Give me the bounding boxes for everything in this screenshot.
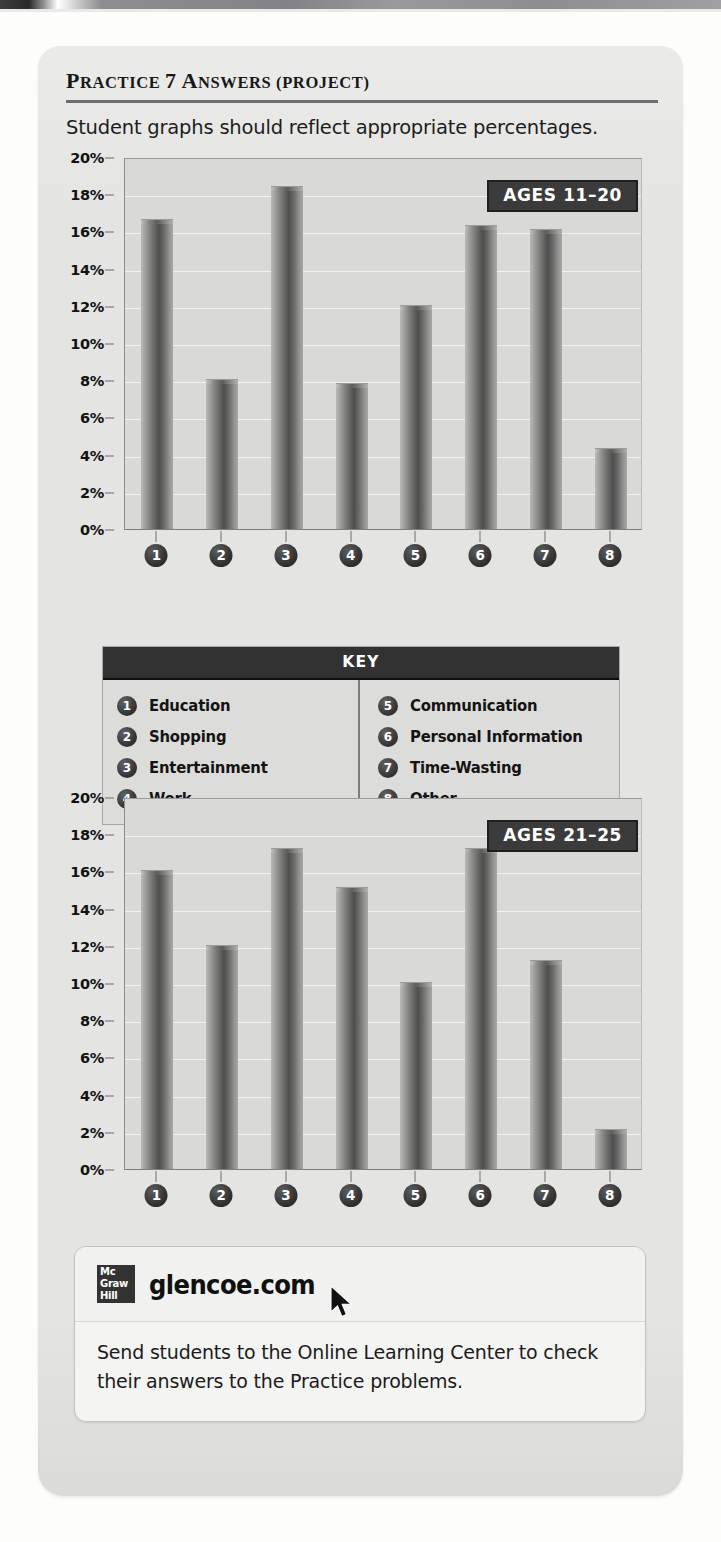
x-axis-item-2: 2 [210, 1171, 233, 1207]
x-axis-label-2: 2 [210, 1184, 233, 1207]
page-root: PRACTICE 7 ANSWERS (PROJECT) Student gra… [0, 0, 721, 1542]
x-tick-mark [480, 1171, 481, 1182]
y-tick-label: 6% [80, 1050, 104, 1066]
bar-2 [206, 945, 238, 1169]
y-tick-label: 8% [80, 373, 104, 389]
x-tick-mark [609, 1171, 610, 1182]
bar-5 [400, 982, 432, 1169]
y-tick-mark [105, 492, 114, 493]
y-tick-mark [105, 946, 114, 947]
logo-line-1: Mc [100, 1266, 132, 1278]
y-tick-label: 12% [70, 299, 104, 315]
x-axis-label-1: 1 [145, 544, 168, 567]
list-item: 1 Education [117, 690, 358, 721]
y-tick-mark [105, 835, 114, 836]
y-tick-label: 10% [70, 336, 104, 352]
bar-6 [465, 848, 497, 1169]
y-tick-label: 20% [70, 790, 104, 806]
key-label-5: Communication [410, 696, 537, 715]
page-title: PRACTICE 7 ANSWERS (PROJECT) [66, 68, 658, 94]
x-tick-mark [415, 1171, 416, 1182]
bar-7 [530, 960, 562, 1169]
x-tick-mark [544, 1171, 545, 1182]
gridline [125, 948, 641, 949]
title-part-5: ROJECT) [293, 73, 370, 92]
x-axis-label-1: 1 [145, 1184, 168, 1207]
gridline [125, 911, 641, 912]
list-item: 6 Personal Information [378, 721, 619, 752]
x-tick-mark [415, 531, 416, 542]
x-tick-mark [350, 1171, 351, 1182]
bar-8 [595, 448, 627, 529]
y-tick-label: 0% [80, 1162, 104, 1178]
bar-8 [595, 1129, 627, 1169]
y-tick-label: 20% [70, 150, 104, 166]
y-tick-mark [105, 418, 114, 419]
y-tick-label: 14% [70, 902, 104, 918]
key-bullet-7: 7 [378, 758, 398, 778]
x-tick-mark [350, 531, 351, 542]
y-tick-mark [105, 1132, 114, 1133]
y-tick-mark [105, 455, 114, 456]
title-part-1: P [66, 68, 80, 93]
x-tick-mark [221, 1171, 222, 1182]
plot-area-1 [124, 158, 642, 530]
x-axis-item-3: 3 [274, 531, 297, 567]
y-tick-label: 16% [70, 864, 104, 880]
bar-1 [141, 219, 173, 529]
x-axis-1: 12345678 [124, 531, 642, 571]
x-axis-label-4: 4 [339, 1184, 362, 1207]
bar-3 [271, 186, 303, 529]
x-axis-item-1: 1 [145, 1171, 168, 1207]
x-axis-item-8: 8 [598, 1171, 621, 1207]
y-tick-label: 10% [70, 976, 104, 992]
y-tick-mark [105, 798, 114, 799]
scan-top-strip [0, 0, 721, 9]
x-axis-item-4: 4 [339, 1171, 362, 1207]
key-bullet-6: 6 [378, 727, 398, 747]
x-axis-item-8: 8 [598, 531, 621, 567]
y-tick-label: 2% [80, 485, 104, 501]
y-tick-mark [105, 269, 114, 270]
gridline [125, 419, 641, 420]
key-header: KEY [103, 647, 619, 680]
x-tick-mark [221, 531, 222, 542]
y-tick-label: 14% [70, 262, 104, 278]
glencoe-callout[interactable]: Mc Graw Hill glencoe.com Send students t… [74, 1246, 646, 1422]
y-tick-mark [105, 232, 114, 233]
y-axis-2: 0%2%4%6%8%10%12%14%16%18%20% [60, 798, 114, 1170]
gridline [125, 494, 641, 495]
gridline [125, 233, 641, 234]
gridline [125, 1022, 641, 1023]
x-axis-label-8: 8 [598, 1184, 621, 1207]
bar-6 [465, 225, 497, 529]
x-axis-item-2: 2 [210, 531, 233, 567]
x-axis-label-5: 5 [404, 1184, 427, 1207]
y-axis-1: 0%2%4%6%8%10%12%14%16%18%20% [60, 158, 114, 530]
x-axis-item-7: 7 [533, 531, 556, 567]
y-tick-mark [105, 1021, 114, 1022]
logo-line-3: Hill [100, 1290, 132, 1302]
gridline [125, 985, 641, 986]
y-tick-mark [105, 909, 114, 910]
x-tick-mark [285, 531, 286, 542]
x-axis-label-6: 6 [469, 1184, 492, 1207]
y-tick-label: 12% [70, 939, 104, 955]
gridline [125, 308, 641, 309]
title-part-2: RACTICE [80, 73, 165, 92]
gridline [125, 382, 641, 383]
x-axis-label-3: 3 [274, 544, 297, 567]
x-axis-item-7: 7 [533, 1171, 556, 1207]
x-axis-label-7: 7 [533, 544, 556, 567]
x-tick-mark [156, 1171, 157, 1182]
list-item: 3 Entertainment [117, 752, 358, 783]
key-bullet-2: 2 [117, 727, 137, 747]
x-axis-label-6: 6 [469, 544, 492, 567]
y-tick-label: 6% [80, 410, 104, 426]
bar-5 [400, 305, 432, 529]
y-tick-label: 8% [80, 1013, 104, 1029]
y-tick-label: 4% [80, 1088, 104, 1104]
x-axis-item-4: 4 [339, 531, 362, 567]
glencoe-brand-link[interactable]: glencoe.com [149, 1269, 315, 1300]
gridline [125, 1134, 641, 1135]
